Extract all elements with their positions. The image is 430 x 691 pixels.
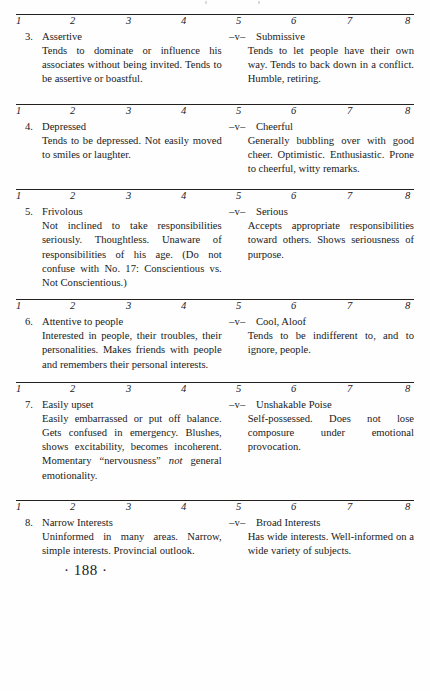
scale-tick-row: 1 2 3 4 5 6 7 8 bbox=[16, 383, 414, 396]
entry-right-pole: Serious bbox=[256, 204, 288, 219]
scale-tick-6: 6 bbox=[291, 104, 296, 117]
entry-left-description: Interested in people, their troubles, th… bbox=[42, 329, 222, 372]
rating-entry-3: 3. Assertive –v– Submissive Tends to dom… bbox=[16, 28, 414, 87]
scale-tick-8: 8 bbox=[405, 14, 410, 27]
entry-left-description: Easily embarrassed or put off balance. G… bbox=[42, 412, 222, 483]
entry-right-description: Accepts appropriate responsibilities tow… bbox=[248, 219, 414, 290]
scale-tick-7: 7 bbox=[347, 299, 352, 312]
scale-tick-1: 1 bbox=[16, 299, 21, 312]
scale-tick-4: 4 bbox=[181, 500, 186, 513]
scale-tick-3: 3 bbox=[126, 189, 131, 202]
scale-tick-7: 7 bbox=[347, 189, 352, 202]
scale-tick-2: 2 bbox=[70, 500, 75, 513]
scale-tick-2: 2 bbox=[70, 189, 75, 202]
scale-tick-1: 1 bbox=[16, 382, 21, 395]
entry-right-description: Tends to be indifferent to, and to ignor… bbox=[248, 329, 414, 372]
entry-columns: Tends to dominate or influence his assoc… bbox=[16, 44, 414, 87]
scale-tick-6: 6 bbox=[291, 500, 296, 513]
scale-tick-7: 7 bbox=[347, 14, 352, 27]
scale-tick-5: 5 bbox=[236, 14, 241, 27]
scale-tick-1: 1 bbox=[16, 189, 21, 202]
entry-columns: Not inclined to take responsibilities se… bbox=[16, 219, 414, 290]
scale-tick-7: 7 bbox=[347, 104, 352, 117]
scale-tick-5: 5 bbox=[236, 500, 241, 513]
entry-columns: Uninformed in many areas. Narrow, simple… bbox=[16, 530, 414, 558]
rating-scale-7: 1 2 3 4 5 6 7 8 bbox=[16, 382, 414, 396]
scale-tick-6: 6 bbox=[291, 189, 296, 202]
rating-item-8: 1 2 3 4 5 6 7 8 8. Narrow Interests –v– … bbox=[16, 500, 414, 558]
top-spacer bbox=[16, 0, 414, 14]
entry-number: 7. bbox=[25, 397, 33, 412]
item-spacer bbox=[16, 483, 414, 500]
entry-headline: 3. Assertive –v– Submissive bbox=[16, 29, 414, 44]
item-spacer bbox=[16, 87, 414, 104]
entry-separator: –v– bbox=[229, 119, 246, 134]
scale-tick-3: 3 bbox=[126, 500, 131, 513]
rating-entry-7: 7. Easily upset –v– Unshakable Poise Eas… bbox=[16, 396, 414, 483]
entry-right-description: Generally bubbling over with good cheer.… bbox=[248, 134, 414, 177]
entry-right-description: Tends to let people have their own way. … bbox=[248, 44, 414, 87]
entry-number: 4. bbox=[25, 119, 33, 134]
entry-separator: –v– bbox=[229, 397, 246, 412]
scale-tick-2: 2 bbox=[70, 382, 75, 395]
rating-item-6: 1 2 3 4 5 6 7 8 6. Attentive to people –… bbox=[16, 299, 414, 372]
entry-left-text: Tends to dominate or influence his assoc… bbox=[42, 44, 222, 87]
rating-entry-5: 5. Frivolous –v– Serious Not inclined to… bbox=[16, 203, 414, 290]
page-artifact-mark bbox=[258, 1, 260, 4]
entry-left-description: Uninformed in many areas. Narrow, simple… bbox=[42, 530, 222, 558]
rating-entry-8: 8. Narrow Interests –v– Broad Interests … bbox=[16, 514, 414, 558]
scale-tick-8: 8 bbox=[405, 382, 410, 395]
entry-headline: 6. Attentive to people –v– Cool, Aloof bbox=[16, 314, 414, 329]
scale-tick-5: 5 bbox=[236, 382, 241, 395]
entry-left-text: Not inclined to take responsibilities se… bbox=[42, 219, 222, 290]
entry-right-text: Self-possessed. Does not lose composure … bbox=[248, 412, 414, 455]
entry-headline: 5. Frivolous –v– Serious bbox=[16, 204, 414, 219]
scale-tick-4: 4 bbox=[181, 104, 186, 117]
entry-number: 6. bbox=[25, 314, 33, 329]
entry-right-text: Generally bubbling over with good cheer.… bbox=[248, 134, 414, 177]
scale-tick-row: 1 2 3 4 5 6 7 8 bbox=[16, 300, 414, 313]
entry-left-text: Interested in people, their troubles, th… bbox=[42, 329, 222, 372]
scale-tick-4: 4 bbox=[181, 189, 186, 202]
scale-tick-1: 1 bbox=[16, 500, 21, 513]
entry-separator: –v– bbox=[229, 29, 246, 44]
rating-entry-4: 4. Depressed –v– Cheerful Tends to be de… bbox=[16, 118, 414, 177]
entry-number: 5. bbox=[25, 204, 33, 219]
scale-tick-5: 5 bbox=[236, 299, 241, 312]
rating-scale-6: 1 2 3 4 5 6 7 8 bbox=[16, 299, 414, 313]
scale-tick-2: 2 bbox=[70, 299, 75, 312]
entry-left-text: Easily embarrassed or put off balance. G… bbox=[42, 412, 222, 483]
entry-headline: 7. Easily upset –v– Unshakable Poise bbox=[16, 397, 414, 412]
scale-tick-row: 1 2 3 4 5 6 7 8 bbox=[16, 15, 414, 28]
scale-tick-3: 3 bbox=[126, 14, 131, 27]
scale-tick-7: 7 bbox=[347, 500, 352, 513]
entry-right-text: Tends to be indifferent to, and to ignor… bbox=[248, 329, 414, 357]
document-page: 1 2 3 4 5 6 7 8 3. Assertive –v– Submiss… bbox=[0, 0, 430, 691]
entry-left-pole: Depressed bbox=[42, 119, 86, 134]
scale-tick-8: 8 bbox=[405, 189, 410, 202]
entry-number: 8. bbox=[25, 515, 33, 530]
entry-left-pole: Narrow Interests bbox=[42, 515, 113, 530]
item-spacer bbox=[16, 290, 414, 299]
scale-tick-3: 3 bbox=[126, 104, 131, 117]
entry-right-pole: Unshakable Poise bbox=[256, 397, 332, 412]
scale-tick-4: 4 bbox=[181, 382, 186, 395]
rating-scale-4: 1 2 3 4 5 6 7 8 bbox=[16, 104, 414, 118]
rating-scale-5: 1 2 3 4 5 6 7 8 bbox=[16, 189, 414, 203]
entry-separator: –v– bbox=[229, 314, 246, 329]
entry-headline: 8. Narrow Interests –v– Broad Interests bbox=[16, 515, 414, 530]
scale-tick-1: 1 bbox=[16, 14, 21, 27]
entry-columns: Tends to be depressed. Not easily moved … bbox=[16, 134, 414, 177]
scale-tick-2: 2 bbox=[70, 14, 75, 27]
item-spacer bbox=[16, 372, 414, 382]
scale-tick-3: 3 bbox=[126, 299, 131, 312]
scale-tick-6: 6 bbox=[291, 299, 296, 312]
rating-scale-8: 1 2 3 4 5 6 7 8 bbox=[16, 500, 414, 514]
entry-left-pole: Frivolous bbox=[42, 204, 83, 219]
entry-right-pole: Cool, Aloof bbox=[256, 314, 306, 329]
item-spacer bbox=[16, 176, 414, 189]
entry-left-pole: Attentive to people bbox=[42, 314, 123, 329]
entry-right-pole: Broad Interests bbox=[256, 515, 320, 530]
entry-separator: –v– bbox=[229, 515, 246, 530]
entry-left-description: Tends to dominate or influence his assoc… bbox=[42, 44, 222, 87]
